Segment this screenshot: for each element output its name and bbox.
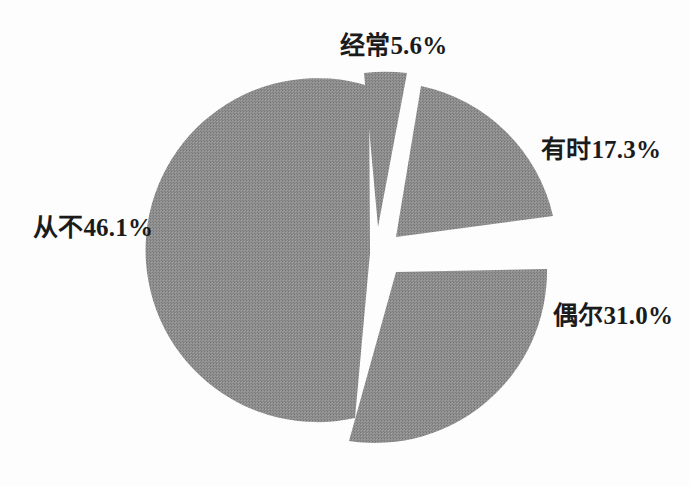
pie-chart-canvas — [0, 0, 689, 486]
pie-chart-figure: 经常5.6% 有时17.3% 偶尔31.0% 从不46.1% — [0, 0, 689, 486]
pie-label-jingchang: 经常5.6% — [340, 33, 447, 58]
pie-label-youshi: 有时17.3% — [541, 137, 661, 162]
pie-label-ouer: 偶尔31.0% — [553, 303, 673, 328]
pie-label-congbu: 从不46.1% — [33, 215, 153, 240]
